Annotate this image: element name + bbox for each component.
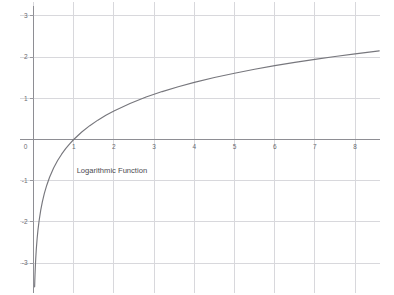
x-tick-label-8: 8 xyxy=(353,143,357,150)
y-tick-label-2: 2 xyxy=(24,53,28,60)
x-tick-label-7: 7 xyxy=(313,143,317,150)
curve-annotations: Logarithmic Function xyxy=(77,166,148,175)
y-tick-label--1: -1 xyxy=(22,177,28,184)
y-tick-label--2: -2 xyxy=(22,218,28,225)
y-tick-label-3: 3 xyxy=(24,12,28,19)
x-tick-label-2: 2 xyxy=(112,143,116,150)
chart-background xyxy=(0,0,394,295)
x-tick-label-6: 6 xyxy=(273,143,277,150)
chart-canvas: 012345678 -3-2-1123 Logarithmic Function xyxy=(0,0,394,295)
x-tick-label-3: 3 xyxy=(152,143,156,150)
logarithmic-function-chart: 012345678 -3-2-1123 Logarithmic Function xyxy=(0,0,394,295)
x-tick-label-5: 5 xyxy=(233,143,237,150)
x-tick-label-0: 0 xyxy=(24,143,28,150)
y-tick-label--3: -3 xyxy=(22,259,28,266)
annotation-0: Logarithmic Function xyxy=(77,166,148,175)
x-tick-label-4: 4 xyxy=(192,143,196,150)
y-tick-label-1: 1 xyxy=(24,95,28,102)
x-tick-label-1: 1 xyxy=(72,143,76,150)
